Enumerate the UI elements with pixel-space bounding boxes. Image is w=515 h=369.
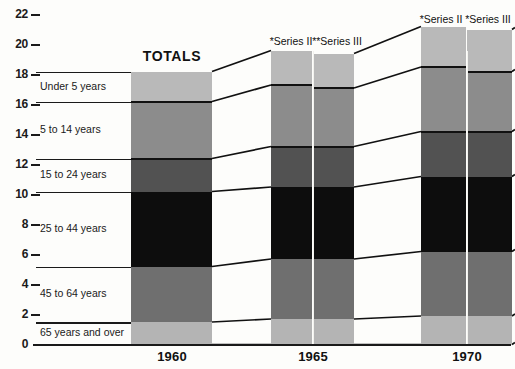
series-label-1965-ii: *Series II	[270, 35, 313, 47]
bar-segment-under-5	[467, 30, 512, 72]
y-axis-tick-mark	[31, 284, 40, 286]
bar-segment-25-to-44	[271, 187, 312, 259]
bar-segment-under-5	[421, 27, 466, 68]
y-axis-tick-label: 0	[2, 337, 28, 351]
leader-line	[212, 319, 271, 322]
leader-line	[354, 252, 421, 260]
bar-segment-divider	[421, 66, 466, 68]
chart-title: TOTALS	[143, 48, 201, 64]
bar-segment-divider	[131, 101, 212, 103]
y-axis-tick-label: 14	[2, 127, 28, 141]
legend-label-45-to-64: 45 to 64 years	[40, 287, 107, 299]
leader-line	[354, 316, 421, 319]
y-axis-tick-label: 20	[2, 37, 28, 51]
bar-segment-5-to-14	[421, 67, 466, 132]
bar-segment-15-to-24	[421, 132, 466, 177]
bar-pair-separator	[313, 51, 314, 345]
bar-segment-65-and-over	[421, 316, 466, 345]
bar-segment-divider	[467, 71, 512, 73]
bar-segment-divider	[467, 131, 512, 133]
series-label-1965-iii: **Series III	[312, 35, 362, 47]
y-axis-tick-mark	[31, 314, 40, 316]
bar-segment-65-and-over	[131, 322, 212, 345]
y-axis-tick-label: 6	[2, 247, 28, 261]
legend-divider	[36, 267, 131, 269]
bar-segment-under-5	[313, 54, 354, 89]
bar-segment-25-to-44	[467, 177, 512, 252]
legend-divider	[36, 322, 131, 324]
legend-divider	[36, 72, 131, 74]
bar-segment-under-5	[271, 51, 312, 86]
y-axis-tick-mark	[31, 44, 40, 46]
bar-segment-45-to-64	[467, 252, 512, 317]
chart-canvas: 2220181614121086420 Under 5 years5 to 14…	[0, 0, 515, 369]
bar-segment-divider	[421, 131, 466, 133]
y-axis-tick-label: 16	[2, 97, 28, 111]
legend-divider	[36, 159, 131, 161]
bar-segment-divider	[131, 158, 212, 160]
leader-line	[212, 147, 271, 159]
y-axis-tick-label: 22	[2, 7, 28, 21]
bar-segment-5-to-14	[467, 72, 512, 132]
leader-line	[354, 177, 421, 188]
group-label-1960: 1960	[157, 349, 187, 364]
y-axis-tick-mark	[31, 14, 40, 16]
leader-line	[354, 27, 421, 54]
bar-segment-45-to-64	[271, 259, 312, 319]
legend-label-under-5: Under 5 years	[40, 80, 106, 92]
legend-divider	[36, 192, 131, 194]
legend-label-25-to-44: 25 to 44 years	[40, 222, 107, 234]
group-label-1965: 1965	[298, 349, 328, 364]
bar-segment-divider	[271, 146, 312, 148]
bar-segment-45-to-64	[421, 252, 466, 317]
y-axis-tick-label: 12	[2, 157, 28, 171]
bar-segment-25-to-44	[313, 187, 354, 259]
bar-segment-15-to-24	[271, 147, 312, 188]
legend-label-5-to-14: 5 to 14 years	[40, 123, 101, 135]
bar-segment-25-to-44	[421, 177, 466, 252]
y-axis-tick-mark	[31, 254, 40, 256]
leader-line	[212, 85, 271, 102]
bar-segment-under-5	[131, 72, 212, 102]
leader-line	[212, 259, 271, 267]
group-label-1970: 1970	[452, 349, 482, 364]
bar-segment-65-and-over	[271, 319, 312, 345]
legend-label-65-and-over: 65 years and over	[40, 326, 124, 338]
bar-segment-5-to-14	[131, 102, 212, 159]
leader-line	[212, 51, 271, 72]
y-axis-tick-mark	[31, 134, 40, 136]
series-label-1970-iii: *Series III	[465, 13, 511, 25]
bar-segment-45-to-64	[131, 267, 212, 323]
y-axis-tick-mark	[31, 194, 40, 196]
leader-line	[212, 187, 271, 192]
bar-segment-divider	[313, 87, 354, 89]
bar-segment-divider	[313, 146, 354, 148]
y-axis-tick-label: 8	[2, 217, 28, 231]
y-axis-tick-mark	[31, 74, 40, 76]
bar-segment-15-to-24	[131, 159, 212, 192]
bar-pair-separator	[467, 51, 468, 345]
legend-divider	[36, 102, 131, 104]
y-axis-tick-mark	[31, 104, 40, 106]
bar-segment-65-and-over	[467, 316, 512, 345]
legend-label-15-to-24: 15 to 24 years	[40, 168, 107, 180]
y-axis-tick-mark	[31, 164, 40, 166]
bar-segment-45-to-64	[313, 259, 354, 319]
y-axis-tick-label: 4	[2, 277, 28, 291]
bar-segment-15-to-24	[467, 132, 512, 177]
y-axis-tick-label: 10	[2, 187, 28, 201]
x-axis-baseline	[33, 344, 511, 346]
bar-segment-65-and-over	[313, 319, 354, 345]
bar-segment-15-to-24	[313, 147, 354, 188]
bar-segment-5-to-14	[271, 85, 312, 147]
leader-line	[354, 67, 421, 88]
y-axis-tick-label: 18	[2, 67, 28, 81]
bar-segment-5-to-14	[313, 88, 354, 147]
leader-line	[354, 132, 421, 147]
bar-segment-25-to-44	[131, 192, 212, 267]
y-axis-tick-mark	[31, 224, 40, 226]
y-axis-tick-label: 2	[2, 307, 28, 321]
series-label-1970-ii: *Series II	[420, 13, 463, 25]
bar-segment-divider	[271, 84, 312, 86]
